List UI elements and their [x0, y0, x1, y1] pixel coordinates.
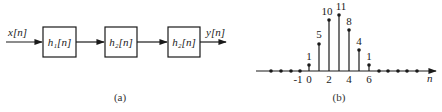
sample-dot: [405, 69, 409, 73]
stem-n1: 5: [316, 28, 322, 71]
value-label: 11: [336, 0, 347, 12]
axis-label-n: n: [427, 72, 433, 84]
caption-a: (a): [114, 91, 127, 104]
tick-label: -1: [293, 73, 302, 85]
block-h2-second-label: h₂[n]: [172, 36, 195, 48]
caption-b: (b): [333, 91, 346, 104]
value-label: 1: [306, 50, 312, 62]
output-label: y[n]: [205, 26, 225, 38]
input-label: x[n]: [7, 26, 27, 38]
block-h1-label: h₁[n]: [48, 36, 71, 48]
value-label: 1: [366, 50, 372, 62]
stem-n2: 10: [322, 5, 334, 71]
sample-dot: [386, 69, 390, 73]
stem-n5: 4: [356, 35, 362, 71]
figure-canvas: x[n] h₁[n] h₂[n] h₂[n] y[n] (a) n 1: [0, 0, 442, 112]
block-diagram: x[n] h₁[n] h₂[n] h₂[n] y[n] (a): [6, 26, 226, 104]
stem-n3: 11: [336, 0, 347, 71]
tick-label: 4: [346, 73, 352, 85]
value-label: 4: [356, 35, 362, 47]
sample-dot: [289, 69, 293, 73]
tick-label: 6: [366, 73, 372, 85]
block-h2-first-label: h₂[n]: [109, 36, 132, 48]
value-label: 5: [316, 28, 322, 40]
value-label: 10: [322, 5, 334, 17]
stem-n4: 8: [346, 15, 352, 71]
sample-dot: [269, 69, 273, 73]
tick-label: 2: [326, 73, 332, 85]
value-label: 8: [346, 15, 352, 27]
stem-plot: n 1 5 10 11 8: [256, 0, 436, 104]
sample-dot: [279, 69, 283, 73]
sample-dot: [377, 69, 381, 73]
stem-n6: 1: [366, 50, 372, 71]
stem-n0: 1: [306, 50, 312, 71]
tick-label: 0: [306, 73, 312, 85]
sample-dot: [396, 69, 400, 73]
sample-dot: [415, 69, 419, 73]
